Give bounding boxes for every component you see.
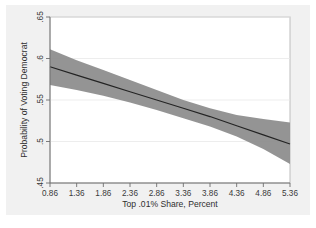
- x-axis-ticks: 0.861.361.862.362.863.363.864.364.865.36: [42, 183, 298, 198]
- x-tick-label: 4.86: [255, 189, 271, 198]
- x-tick-label: 2.36: [122, 189, 138, 198]
- x-axis-title: Top .01% Share, Percent: [122, 199, 218, 209]
- y-axis-ticks: .45.5.55.6.65: [36, 11, 50, 189]
- x-tick-label: 1.36: [69, 189, 85, 198]
- x-tick-label: 2.86: [149, 189, 165, 198]
- x-tick-label: 0.86: [42, 189, 58, 198]
- x-tick-label: 3.36: [175, 189, 191, 198]
- x-tick-label: 3.86: [202, 189, 218, 198]
- y-tick-label: .65: [36, 11, 45, 23]
- y-tick-label: .45: [36, 177, 45, 189]
- y-tick-label: .6: [36, 55, 45, 62]
- y-tick-label: .5: [36, 138, 45, 145]
- x-tick-label: 1.86: [95, 189, 111, 198]
- x-tick-label: 4.36: [229, 189, 245, 198]
- chart-figure: 0.861.361.862.362.863.363.864.364.865.36…: [0, 0, 316, 228]
- y-axis-title: Probability of Voting Democrat: [19, 42, 29, 158]
- y-tick-label: .55: [36, 94, 45, 106]
- x-tick-label: 5.36: [282, 189, 298, 198]
- chart-svg: 0.861.361.862.362.863.363.864.364.865.36…: [0, 0, 316, 228]
